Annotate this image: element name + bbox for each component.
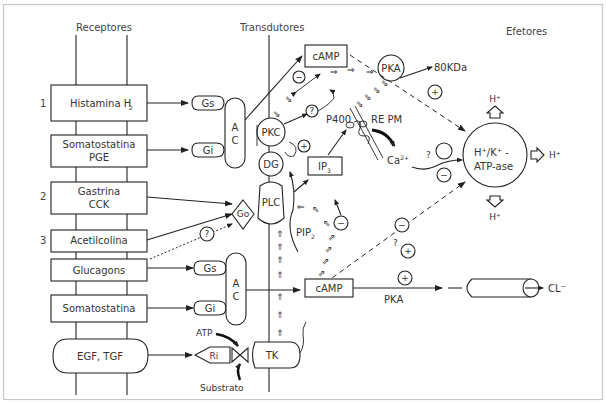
header-receptors: Receptores — [76, 22, 132, 33]
receptor-gastrina-cck: Gastrina CCK — [51, 182, 147, 214]
atp-label: ATP — [196, 328, 213, 338]
row-number-1: 1 — [40, 98, 46, 109]
svg-text:⇗: ⇗ — [325, 244, 333, 254]
pka-bottom-label: PKA — [384, 294, 403, 305]
svg-text:DG: DG — [263, 159, 278, 170]
row-number-3: 3 — [40, 235, 46, 246]
svg-text:⇒: ⇒ — [330, 67, 338, 77]
camp-bottom-box: cAMP — [305, 279, 353, 297]
svg-text:⇘: ⇘ — [285, 94, 293, 104]
svg-text:A: A — [232, 122, 239, 133]
svg-text:?: ? — [205, 229, 210, 239]
svg-text:⇐: ⇐ — [297, 202, 305, 212]
svg-text:⇘: ⇘ — [356, 99, 364, 109]
header-transducers: Transdutores — [239, 22, 304, 33]
minus-circle-ca: − — [437, 168, 451, 182]
p400-label: P400 — [326, 114, 351, 125]
svg-text:Gastrina: Gastrina — [78, 186, 120, 197]
svg-text:C: C — [232, 135, 239, 146]
svg-text:⇗: ⇗ — [322, 256, 330, 266]
proton-pump: H⁺/K⁺ - ATP-ase — [463, 123, 527, 187]
svg-text:⇗: ⇗ — [328, 232, 336, 242]
unknown-circle-pkc: ? — [306, 105, 318, 117]
svg-text:⇖: ⇖ — [323, 218, 331, 228]
substrate-label: Substrato — [200, 383, 244, 393]
plus-circle-mid: + — [401, 244, 415, 258]
pkc-node: PKC — [257, 118, 285, 146]
svg-text:⇒: ⇒ — [366, 67, 374, 77]
svg-text:+: + — [431, 87, 439, 97]
svg-text:PKA: PKA — [381, 63, 400, 74]
svg-text:CCK: CCK — [89, 199, 110, 210]
svg-text:⇘: ⇘ — [273, 109, 281, 119]
adenylate-cyclase-top: A C — [225, 98, 245, 168]
receptor-acetilcolina: Acetilcolina — [51, 230, 147, 252]
empty-circle-ca — [436, 143, 452, 159]
svg-text:A: A — [233, 278, 240, 289]
dg-node: DG — [259, 152, 283, 176]
plc-node: PLC — [258, 182, 284, 224]
svg-text:Gi: Gi — [203, 145, 214, 156]
unknown-label-mid: ? — [393, 238, 398, 248]
svg-text:⇑: ⇑ — [276, 270, 284, 280]
plus-circle-bottom: + — [398, 271, 412, 285]
svg-text:H⁺: H⁺ — [549, 150, 561, 160]
svg-text:⇒: ⇒ — [347, 65, 355, 75]
svg-text:+: + — [404, 246, 412, 256]
adenylate-cyclase-bottom: A C — [226, 253, 246, 325]
svg-text:Acetilcolina: Acetilcolina — [70, 235, 127, 246]
svg-text:Gs: Gs — [202, 98, 215, 109]
svg-text:TK: TK — [265, 350, 279, 361]
minus-circle-top: − — [293, 71, 305, 83]
receptor-somatostatina-pge: Somatostatina PGE — [51, 135, 147, 167]
svg-text:⇗: ⇗ — [318, 268, 326, 278]
svg-text:PLC: PLC — [262, 197, 281, 208]
svg-text:⇑: ⇑ — [276, 242, 284, 252]
svg-text:⇑: ⇑ — [276, 292, 284, 302]
tyrosine-kinase: TK — [253, 342, 301, 368]
kda-label: 80KDa — [434, 62, 467, 73]
svg-text:C: C — [233, 291, 240, 302]
svg-text:⇘: ⇘ — [364, 92, 372, 102]
minus-circle-mid: − — [395, 218, 409, 232]
svg-text:Gi: Gi — [205, 303, 216, 314]
svg-text:PGE: PGE — [89, 152, 109, 163]
svg-text:Somatostatina: Somatostatina — [63, 303, 136, 314]
receptor-histamina: Histamina H 2 — [51, 85, 147, 121]
svg-text:EGF, TGF: EGF, TGF — [77, 351, 123, 362]
svg-text:cAMP: cAMP — [313, 51, 340, 62]
header-effectors: Efetores — [506, 26, 547, 37]
re-pm-label: RE PM — [371, 114, 402, 125]
row-number-2: 2 — [40, 191, 46, 202]
plus-circle-pka: + — [428, 85, 442, 99]
svg-text:⇘: ⇘ — [373, 85, 381, 95]
svg-text:PKC: PKC — [261, 127, 280, 138]
svg-text:−: − — [337, 218, 345, 228]
svg-text:H⁺/K⁺ -: H⁺/K⁺ - — [474, 147, 509, 158]
svg-text:−: − — [398, 220, 406, 230]
svg-text:+: + — [401, 273, 409, 283]
chloride-label: CL⁻ — [548, 283, 566, 294]
svg-text:⇑: ⇑ — [276, 255, 284, 265]
unknown-circle-go: ? — [200, 227, 214, 241]
svg-text:Ri: Ri — [210, 351, 219, 361]
svg-text:Somatostatina: Somatostatina — [63, 139, 136, 150]
svg-text:−: − — [440, 170, 448, 180]
svg-text:Glucagons: Glucagons — [73, 265, 126, 276]
svg-text:Histamina H: Histamina H — [70, 98, 131, 109]
gs-protein-top: Gs — [192, 96, 224, 110]
gastric-acid-secretion-diagram: Receptores Transdutores Efetores 1 2 3 H… — [0, 0, 606, 407]
svg-text:Go: Go — [237, 209, 250, 219]
svg-text:H⁺: H⁺ — [489, 212, 501, 222]
receptor-somatostatina: Somatostatina — [51, 295, 147, 322]
svg-text:−: − — [295, 72, 303, 82]
svg-text:⇑: ⇑ — [276, 310, 284, 320]
unknown-label-ca: ? — [426, 150, 431, 160]
receptor-egf-tgf: EGF, TGF — [53, 339, 148, 373]
svg-text:⇑: ⇑ — [276, 328, 284, 338]
gi-protein-bottom: Gi — [194, 301, 226, 315]
ip3-box: IP3 — [308, 157, 342, 175]
minus-circle-ip3: − — [334, 216, 348, 230]
svg-text:⇖: ⇖ — [312, 204, 320, 214]
plus-circle-pkc: + — [298, 140, 310, 152]
